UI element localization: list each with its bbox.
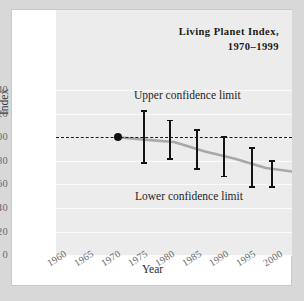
y-tick-40: 40 bbox=[0, 202, 8, 213]
errorbar-cap-lower bbox=[141, 162, 147, 164]
errorbar-stem bbox=[251, 147, 253, 188]
errorbar-stem bbox=[196, 129, 198, 170]
reference-line-100 bbox=[56, 137, 292, 138]
y-tick-20: 20 bbox=[0, 226, 8, 237]
y-tick-120: 120 bbox=[0, 108, 8, 119]
errorbar-cap-lower bbox=[249, 186, 255, 188]
chart-title: Living Planet Index, 1970–1999 bbox=[79, 24, 279, 54]
annotation-lower-confidence-limit: Lower confidence limit bbox=[135, 190, 243, 202]
y-tick-100: 100 bbox=[0, 131, 8, 142]
chart-title-line1: Living Planet Index, bbox=[79, 24, 279, 39]
figure-container: Living Planet Index, 1970–1999 Index bbox=[0, 0, 304, 301]
y-tick-60: 60 bbox=[0, 178, 8, 189]
errorbar-cap-lower bbox=[221, 176, 227, 178]
y-tick-80: 80 bbox=[0, 155, 8, 166]
errorbar-cap-lower bbox=[167, 158, 173, 160]
errorbar-stem bbox=[271, 160, 273, 188]
annotation-upper-confidence-limit: Upper confidence limit bbox=[134, 89, 241, 101]
chart-title-line2: 1970–1999 bbox=[79, 39, 279, 54]
errorbar-cap-lower bbox=[269, 186, 275, 188]
errorbar-stem bbox=[223, 136, 225, 177]
chart-card: Living Planet Index, 1970–1999 Index bbox=[11, 9, 292, 286]
y-tick-0: 0 bbox=[0, 249, 8, 260]
trend-line bbox=[56, 79, 292, 255]
y-tick-140: 140 bbox=[0, 84, 8, 95]
errorbar-stem bbox=[143, 110, 145, 164]
errorbar-stem bbox=[169, 120, 171, 160]
plot-area: Upper confidence limit Lower confidence … bbox=[56, 79, 292, 255]
errorbar-cap-lower bbox=[194, 168, 200, 170]
x-axis-label: Year bbox=[12, 263, 293, 275]
